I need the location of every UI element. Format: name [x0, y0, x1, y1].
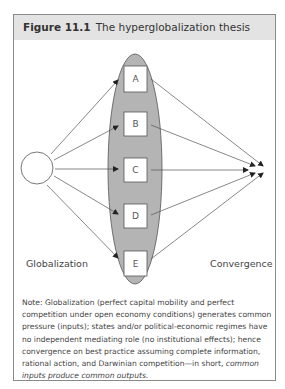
box-d-label: D: [132, 211, 139, 221]
convergence-label: Convergence: [210, 258, 273, 269]
box-c-label: C: [132, 165, 138, 175]
box-b-label: B: [132, 119, 138, 129]
figure-note: Note: Globalization (perfect capital mob…: [22, 297, 272, 382]
note-body: Globalization (perfect capital mobility …: [22, 298, 271, 368]
box-a-label: A: [132, 74, 139, 84]
note-prefix: Note:: [22, 298, 43, 307]
globalization-circle: [21, 152, 53, 184]
output-arrows: [151, 79, 263, 259]
globalization-label: Globalization: [26, 258, 88, 269]
box-e-label: E: [133, 259, 139, 269]
input-arrows: [47, 80, 118, 258]
